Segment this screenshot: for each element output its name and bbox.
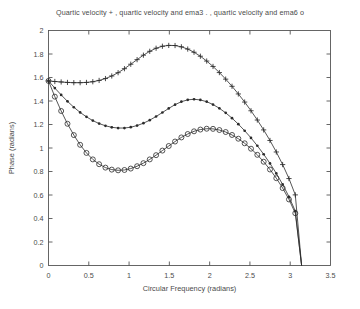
y-tick-label: 0.6 bbox=[34, 191, 44, 200]
y-tick-label: 0.8 bbox=[34, 167, 44, 176]
plot-frame bbox=[49, 31, 331, 266]
x-tick-label: 1.5 bbox=[164, 271, 174, 280]
y-tick-label: 0.4 bbox=[34, 214, 44, 223]
x-tick-label: 3.5 bbox=[326, 271, 336, 280]
x-tick-label: 0 bbox=[47, 271, 51, 280]
y-axis-label: Phase (radians) bbox=[7, 122, 16, 174]
phase-plot: 00.511.522.533.500.20.40.60.811.21.41.61… bbox=[0, 0, 360, 309]
series-circle bbox=[46, 78, 302, 265]
y-tick-label: 2 bbox=[40, 26, 44, 35]
x-tick-label: 3 bbox=[288, 271, 292, 280]
y-tick-label: 1.6 bbox=[34, 73, 44, 82]
x-axis-label: Circular Frequency (radians) bbox=[143, 284, 237, 293]
y-tick-label: 1.8 bbox=[34, 50, 44, 59]
chart-figure: Quartic velocity + , quartic velocity an… bbox=[0, 0, 360, 309]
y-tick-label: 0 bbox=[40, 261, 44, 270]
x-tick-label: 2.5 bbox=[245, 271, 255, 280]
x-tick-label: 1 bbox=[127, 271, 131, 280]
x-tick-label: 2 bbox=[208, 271, 212, 280]
y-tick-label: 1.2 bbox=[34, 120, 44, 129]
y-tick-label: 1.4 bbox=[34, 97, 44, 106]
y-tick-label: 1 bbox=[40, 144, 44, 153]
x-tick-label: 0.5 bbox=[84, 271, 94, 280]
y-tick-label: 0.2 bbox=[34, 238, 44, 247]
series-dot bbox=[47, 80, 301, 266]
